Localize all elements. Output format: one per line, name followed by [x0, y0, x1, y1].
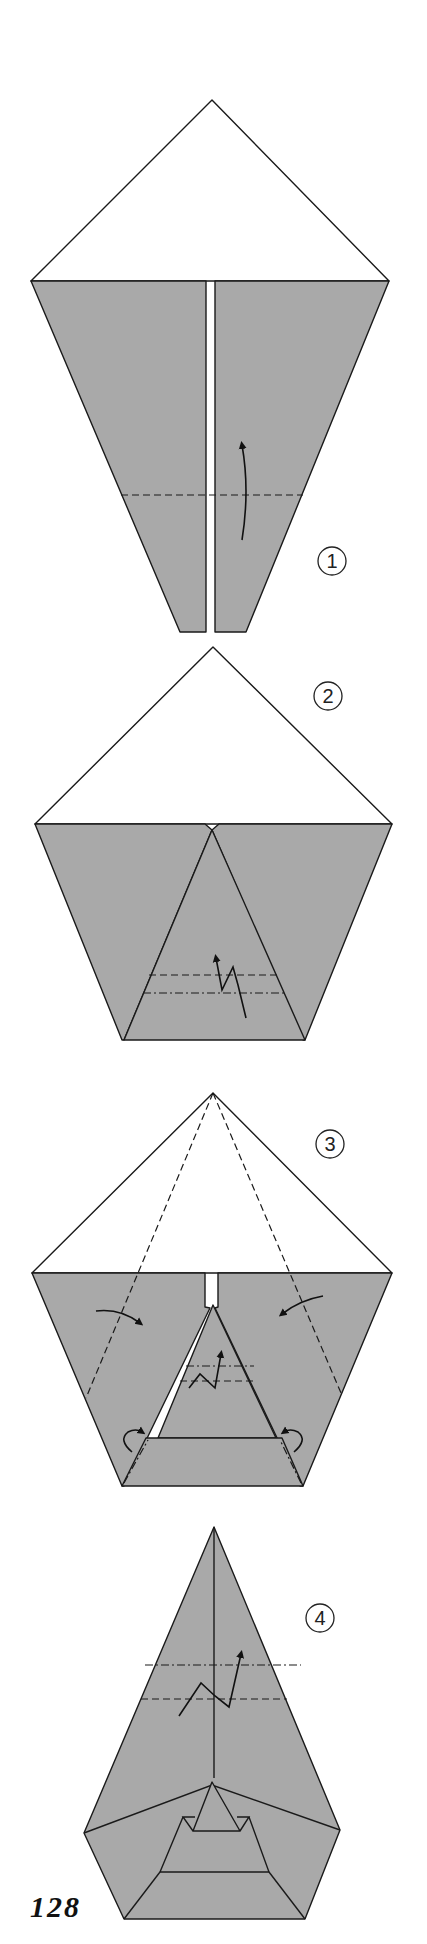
left-flap	[31, 281, 206, 632]
svg-text:3: 3	[324, 1133, 335, 1155]
step-number-badge-1: 1	[318, 547, 346, 575]
svg-text:4: 4	[314, 1607, 325, 1629]
origami-diagram: 1 2 3	[0, 0, 427, 1944]
step-1-diagram: 1	[31, 100, 389, 632]
bottom-trapezoid	[122, 1438, 303, 1486]
white-top-triangle	[35, 647, 392, 824]
step-4-diagram: 4	[84, 1527, 340, 1919]
svg-text:2: 2	[322, 685, 333, 707]
folded-kite	[84, 1527, 340, 1919]
page-number: 128	[30, 1890, 81, 1924]
white-top-triangle	[32, 1093, 392, 1273]
right-flap	[215, 281, 389, 632]
svg-text:1: 1	[326, 550, 337, 572]
step-2-diagram: 2	[35, 647, 392, 1040]
step-3-diagram: 3	[32, 1093, 392, 1486]
white-top-triangle	[31, 100, 389, 281]
step-number-badge-2: 2	[314, 682, 342, 710]
step-number-badge-3: 3	[316, 1130, 344, 1158]
step-number-badge-4: 4	[306, 1604, 334, 1632]
